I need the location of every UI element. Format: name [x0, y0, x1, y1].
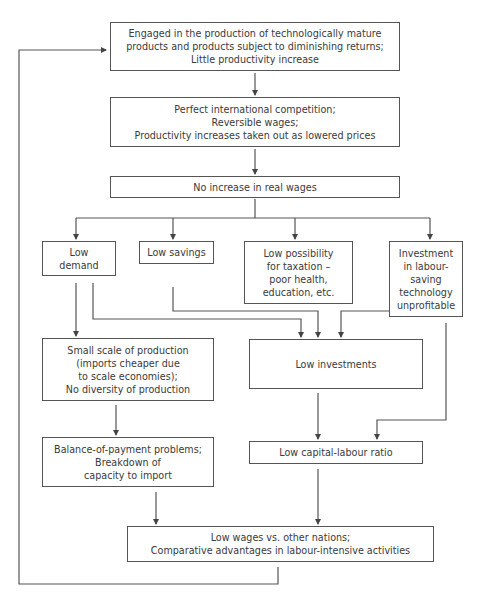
- node-balance-of-payment: Balance-of-payment problems; Breakdown o…: [42, 437, 214, 487]
- node-low-taxation: Low possibility for taxation – poor heal…: [244, 241, 353, 304]
- node-low-capital-labour: Low capital-labour ratio: [249, 441, 423, 464]
- node-investment-unprofitable: Investment in labour- saving technology …: [389, 241, 463, 317]
- node-mature-products: Engaged in the production of technologic…: [110, 22, 400, 71]
- node-no-real-wage-increase: No increase in real wages: [110, 176, 400, 198]
- node-small-scale: Small scale of production (imports cheap…: [42, 338, 214, 401]
- node-low-demand: Low demand: [42, 241, 116, 276]
- node-low-savings: Low savings: [139, 241, 214, 264]
- node-low-wages: Low wages vs. other nations; Comparative…: [127, 526, 434, 562]
- node-perfect-competition: Perfect international competition; Rever…: [110, 97, 400, 147]
- node-low-investments: Low investments: [249, 339, 423, 389]
